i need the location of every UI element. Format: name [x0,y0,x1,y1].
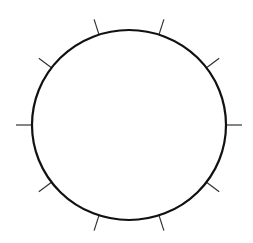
circle-diagram [0,0,253,243]
background [0,0,253,243]
